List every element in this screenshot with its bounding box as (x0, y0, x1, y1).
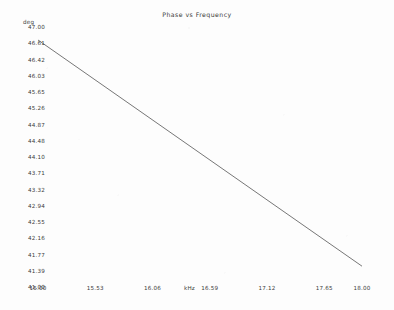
chart-screenshot: Phase vs Frequency deg 47.0046.6146.4246… (0, 0, 394, 310)
phase-data-line (38, 40, 362, 266)
plot-area (0, 0, 394, 310)
